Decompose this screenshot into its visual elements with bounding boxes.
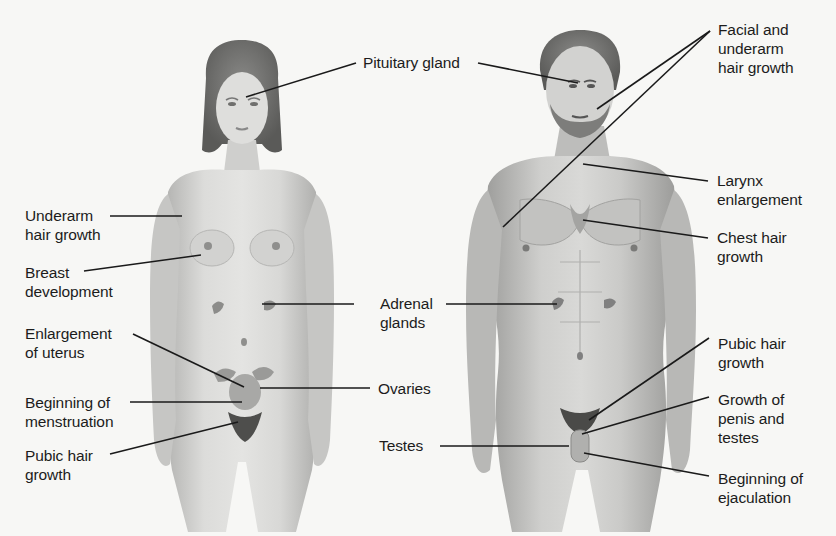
- label-growth-of-penis-and-testes: Growth of penis and testes: [718, 390, 784, 447]
- label-line: hair growth: [718, 58, 794, 77]
- label-line: Enlargement: [25, 324, 112, 343]
- label-line: Chest hair: [717, 228, 787, 247]
- label-beginning-of-ejaculation: Beginning of ejaculation: [718, 469, 803, 507]
- figures-illustration: [0, 0, 836, 536]
- label-pubic-hair-growth-female: Pubic hair growth: [25, 446, 93, 484]
- label-line: menstruation: [25, 412, 113, 431]
- label-line: Ovaries: [378, 379, 431, 398]
- label-adrenal-glands: Adrenal glands: [380, 294, 433, 332]
- label-line: enlargement: [717, 190, 802, 209]
- label-line: Pubic hair: [718, 334, 786, 353]
- puberty-diagram: Pituitary gland Facial and underarm hair…: [0, 0, 836, 536]
- label-ovaries: Ovaries: [378, 379, 431, 398]
- label-line: Pituitary gland: [363, 53, 460, 72]
- label-facial-underarm-hair-growth: Facial and underarm hair growth: [718, 20, 794, 77]
- label-line: penis and: [718, 409, 784, 428]
- label-line: Larynx: [717, 171, 802, 190]
- label-line: Testes: [379, 436, 423, 455]
- label-enlargement-of-uterus: Enlargement of uterus: [25, 324, 112, 362]
- label-line: ejaculation: [718, 488, 803, 507]
- label-breast-development: Breast development: [25, 263, 113, 301]
- label-line: development: [25, 282, 113, 301]
- label-line: Growth of: [718, 390, 784, 409]
- label-line: Adrenal: [380, 294, 433, 313]
- label-line: Beginning of: [25, 393, 113, 412]
- label-pituitary-gland: Pituitary gland: [363, 53, 460, 72]
- label-line: glands: [380, 313, 433, 332]
- female-face: [216, 72, 268, 144]
- label-underarm-hair-growth: Underarm hair growth: [25, 206, 101, 244]
- label-line: growth: [718, 353, 786, 372]
- female-figure: [150, 40, 334, 532]
- label-pubic-hair-growth-male: Pubic hair growth: [718, 334, 786, 372]
- label-line: underarm: [718, 39, 794, 58]
- label-line: hair growth: [25, 225, 101, 244]
- label-line: growth: [717, 247, 787, 266]
- label-line: Facial and: [718, 20, 794, 39]
- label-line: of uterus: [25, 343, 112, 362]
- label-beginning-of-menstruation: Beginning of menstruation: [25, 393, 113, 431]
- label-line: testes: [718, 428, 784, 447]
- female-torso: [166, 170, 318, 532]
- label-line: Beginning of: [718, 469, 803, 488]
- label-larynx-enlargement: Larynx enlargement: [717, 171, 802, 209]
- label-chest-hair-growth: Chest hair growth: [717, 228, 787, 266]
- penis-testes: [571, 430, 589, 462]
- label-testes: Testes: [379, 436, 423, 455]
- uterus: [229, 374, 261, 410]
- male-figure: [466, 30, 696, 532]
- label-line: Pubic hair: [25, 446, 93, 465]
- male-torso: [482, 156, 680, 532]
- label-line: Breast: [25, 263, 113, 282]
- label-line: Underarm: [25, 206, 101, 225]
- label-line: growth: [25, 465, 93, 484]
